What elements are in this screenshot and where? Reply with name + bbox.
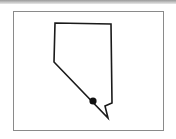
city-marker-las-vegas[interactable] <box>89 97 96 104</box>
map-canvas <box>0 0 176 139</box>
state-outline-nevada <box>54 23 112 118</box>
